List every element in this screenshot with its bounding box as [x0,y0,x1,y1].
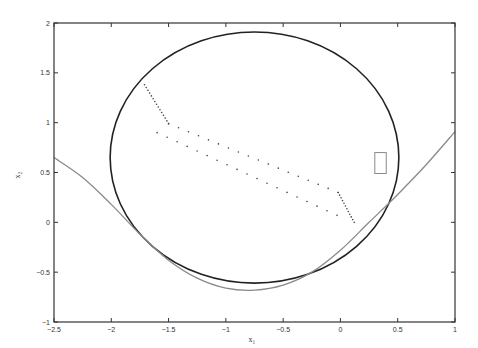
trajectory-dot [159,109,161,111]
trajectory-dot [156,103,158,105]
trajectory-dot [296,196,298,198]
x-tick-label: 0.5 [393,326,403,333]
trajectory-dot [186,146,188,148]
trajectory-dot [268,163,270,165]
y-tick-label: −1 [42,319,50,326]
boundary-curve [54,132,455,291]
trajectory-dot [163,115,165,117]
trajectory-dot [157,106,159,108]
trajectory-dot [353,222,355,224]
trajectory-dot [156,132,158,134]
trajectory-dot [218,143,220,145]
y-axis-label: x₂ [13,171,22,178]
axis-ticks: −2.5−2−1.5−1−0.500.51−1−0.500.511.52 [36,20,457,334]
x-axis-label: x₁ [249,335,256,344]
x-tick-label: −2 [107,326,115,333]
trajectory-dot [248,155,250,157]
x-tick-label: −0.5 [276,326,290,333]
trajectory-dot [316,205,318,207]
trajectory-dot [164,117,166,119]
trajectory-dot [352,219,354,221]
y-tick-label: −0.5 [36,269,50,276]
trajectory-dot [151,95,153,97]
x-tick-label: 0 [338,326,342,333]
trajectory-dot [337,192,339,194]
trajectory-dot [307,179,309,181]
trajectory-dot [152,98,154,100]
trajectory-dot [144,84,146,86]
trajectory-dot [349,213,351,215]
trajectory-dot [236,169,238,171]
x-tick-label: −1.5 [162,326,176,333]
chart: −2.5−2−1.5−1−0.500.51−1−0.500.511.52 x₁ … [0,0,478,348]
trajectory-dot [306,201,308,203]
trajectory-dot [350,216,352,218]
trajectory-dot [196,150,198,152]
trajectory-dot [154,101,156,103]
trajectory-dot [256,178,258,180]
trajectory-dot [198,135,200,137]
plot-area [54,32,455,290]
trajectory-dot [238,151,240,153]
trajectory-dot [317,184,319,186]
trajectory-dot [246,173,248,175]
trajectory-dot [342,200,344,202]
trajectory-dot [145,87,147,89]
trajectory-dot [226,164,228,166]
trajectory-dot [348,211,350,213]
trajectory-dot [228,147,230,149]
trajectory-dot [206,155,208,157]
trajectory-dot [176,141,178,143]
y-tick-label: 2 [46,20,50,27]
trajectory-dot [208,139,210,141]
trajectory-dot [339,194,341,196]
trajectory-dot [287,171,289,173]
trajectory-dot [345,205,347,207]
trajectory-dot [340,197,342,199]
x-tick-label: −1 [222,326,230,333]
trajectory-dot [297,175,299,177]
trajectory-dot [276,187,278,189]
trajectory-dot [188,131,190,133]
trajectory-dot [346,208,348,210]
x-tick-label: −2.5 [47,326,61,333]
y-tick-label: 1.5 [40,69,50,76]
trajectory-dot [216,159,218,161]
trajectory-dot [343,203,345,205]
trajectory-dot [258,159,260,161]
trajectory-dot [277,167,279,169]
trajectory-dot [266,182,268,184]
trajectory-dot [286,192,288,194]
trajectory-dot [326,210,328,212]
trajectory-dot [327,188,329,190]
trajectory-dot [161,112,163,114]
axes-frame [54,23,455,322]
circle-curve [110,32,399,283]
y-tick-label: 0.5 [40,169,50,176]
trajectory-dot [166,120,168,122]
trajectory-dot [149,92,151,94]
y-tick-label: 0 [46,219,50,226]
trajectory-dot [336,215,338,217]
trajectory-dot [178,127,180,129]
x-tick-label: 1 [453,326,457,333]
trajectory-dot [147,90,149,92]
target-rectangle [375,153,386,174]
y-tick-label: 1 [46,119,50,126]
trajectory-dot [168,123,170,125]
trajectory-dot [166,136,168,138]
